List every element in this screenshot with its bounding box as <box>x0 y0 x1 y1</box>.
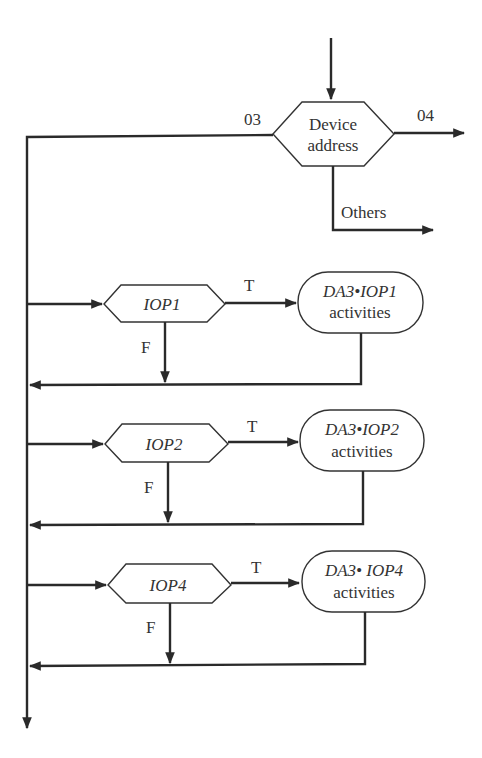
device-address-line1: Device <box>309 115 357 134</box>
iop4-return-arrow <box>30 612 365 666</box>
iop4-action-line2: activities <box>333 583 394 602</box>
iop2-false-label: F <box>144 478 153 497</box>
output-others-label: Others <box>341 203 386 222</box>
output-04-label: 04 <box>417 106 435 125</box>
iop4-true-label: T <box>251 558 262 577</box>
iop1-action-line1: DA3•IOP1 <box>322 282 397 301</box>
branch-iop4: IOP4 T F DA3• IOP4 activities <box>28 551 425 666</box>
iop1-false-label: F <box>141 338 150 357</box>
iop2-return-arrow <box>30 471 363 525</box>
iop1-true-label: T <box>244 276 255 295</box>
branch-iop2: IOP2 T F DA3•IOP2 activities <box>28 410 424 525</box>
iop2-action-line1: DA3•IOP2 <box>324 420 399 439</box>
iop1-return-arrow <box>30 333 361 385</box>
output-03-label: 03 <box>244 110 261 129</box>
iop1-test-label: IOP1 <box>143 295 181 314</box>
branch-iop1: IOP1 T F DA3•IOP1 activities <box>28 272 423 385</box>
flowchart-svg: Device address 04 Others 03 IOP1 T F DA3… <box>0 0 482 758</box>
flowchart-canvas: Device address 04 Others 03 IOP1 T F DA3… <box>0 0 482 758</box>
iop1-action-line2: activities <box>329 303 390 322</box>
iop4-false-label: F <box>146 618 155 637</box>
iop2-test-label: IOP2 <box>145 435 183 454</box>
iop4-action-line1: DA3• IOP4 <box>324 561 404 580</box>
device-address-line2: address <box>308 136 359 155</box>
iop2-true-label: T <box>247 417 258 436</box>
iop2-action-line2: activities <box>331 442 392 461</box>
iop4-test-label: IOP4 <box>149 576 187 595</box>
device-address-decision <box>273 102 394 166</box>
